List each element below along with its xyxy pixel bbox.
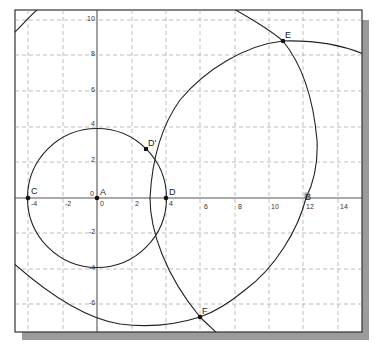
label-A: A [100,187,106,197]
y-tick-label: 4 [91,120,95,127]
plot-frame [15,10,362,332]
point-C[interactable] [26,196,31,201]
y-tick-label: -6 [89,299,95,306]
y-tick-label: -4 [89,264,95,271]
y-tick-label: 8 [91,50,95,57]
y-tick-label: 2 [91,156,95,163]
geometry-figure: -4 -2 0 2 4 6 8 10 12 14 10 8 6 4 2 0 -2… [0,0,378,354]
x-tick-label: 6 [204,203,208,210]
label-D-prime: D' [148,138,156,148]
y-tick-label: 10 [87,15,95,22]
point-D[interactable] [164,196,169,201]
x-tick-label: 14 [340,203,348,210]
label-B: B [305,192,311,202]
label-D: D [169,187,176,197]
x-tick-label: 4 [169,200,173,207]
x-tick-label: 8 [238,203,242,210]
label-C: C [31,186,38,196]
x-tick-label: 0 [100,200,104,207]
y-tick-label: -2 [89,228,95,235]
x-tick-label: 10 [271,203,279,210]
y-tick-label: 0 [90,190,94,197]
x-tick-label: -2 [65,200,71,207]
x-tick-label: 2 [135,200,139,207]
point-A[interactable] [95,196,100,201]
x-tick-label: 12 [306,203,314,210]
label-F: F [202,306,208,316]
x-tick-label: -4 [31,200,37,207]
label-E: E [285,30,291,40]
y-tick-label: 6 [91,86,95,93]
